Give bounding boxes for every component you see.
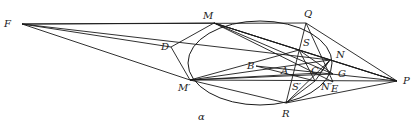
point-label-Mp: M′ [177, 82, 191, 93]
segment-M-D [171, 23, 214, 47]
point-label-C: C [311, 65, 319, 76]
segment-F-Q [22, 23, 306, 24]
conic-label: α [198, 111, 205, 122]
geometry-diagram: α FMQDSNBACGM′S′N′EPR [0, 0, 420, 127]
segment-F-D [22, 24, 171, 47]
point-label-Sp: S′ [292, 81, 302, 92]
segment-F-Mp [22, 24, 190, 80]
point-label-A: A [280, 65, 288, 76]
point-label-D: D [160, 41, 169, 52]
point-label-R: R [281, 108, 290, 119]
segments-group [22, 23, 397, 103]
point-label-S: S [303, 37, 310, 48]
point-label-Q: Q [304, 8, 312, 19]
point-label-M: M [202, 10, 214, 21]
segment-R-P [286, 81, 397, 103]
point-label-G: G [338, 68, 346, 79]
labels-group: α FMQDSNBACGM′S′N′EPR [3, 8, 410, 122]
point-label-N: N [335, 49, 346, 60]
point-label-F: F [3, 18, 12, 29]
point-label-P: P [402, 75, 410, 86]
point-label-E: E [330, 83, 339, 94]
point-label-B: B [246, 60, 254, 71]
segment-Mp-R [190, 80, 286, 103]
